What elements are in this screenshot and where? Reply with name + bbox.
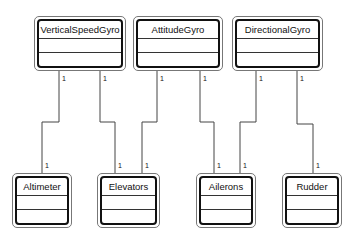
multiplicity-attitude-ailerons-source: 1: [203, 75, 207, 83]
association-attitude-elevators: [142, 70, 157, 173]
multiplicity-directional-ailerons-target: 1: [243, 162, 247, 170]
class-ailerons[interactable]: Ailerons: [196, 173, 256, 228]
operations-compartment: [17, 210, 67, 223]
class-name: VerticalSpeedGyro: [39, 21, 121, 39]
association-vsg-altimeter: [42, 70, 59, 173]
operations-compartment: [287, 210, 337, 223]
association-directional-rudder: [297, 70, 313, 173]
multiplicity-vsg-altimeter-target: 1: [45, 162, 49, 170]
association-attitude-ailerons: [200, 70, 214, 173]
class-name: DirectionalGyro: [237, 21, 318, 39]
class-elevators[interactable]: Elevators: [97, 173, 160, 228]
attributes-compartment: [201, 196, 251, 210]
class-altimeter[interactable]: Altimeter: [12, 173, 72, 228]
operations-compartment: [102, 210, 155, 223]
class-vertical-speed-gyro[interactable]: VerticalSpeedGyro: [34, 16, 126, 71]
multiplicity-directional-rudder-target: 1: [316, 162, 320, 170]
class-name: Ailerons: [201, 178, 251, 196]
attributes-compartment: [138, 39, 218, 53]
class-attitude-gyro[interactable]: AttitudeGyro: [133, 16, 223, 71]
attributes-compartment: [102, 196, 155, 210]
attributes-compartment: [287, 196, 337, 210]
multiplicity-vsg-elevators-source: 1: [103, 75, 107, 83]
multiplicity-attitude-elevators-target: 1: [145, 162, 149, 170]
multiplicity-attitude-ailerons-target: 1: [217, 162, 221, 170]
attributes-compartment: [237, 39, 318, 53]
class-rudder[interactable]: Rudder: [282, 173, 342, 228]
operations-compartment: [138, 53, 218, 66]
operations-compartment: [39, 53, 121, 66]
class-directional-gyro[interactable]: DirectionalGyro: [232, 16, 323, 71]
multiplicity-attitude-elevators-source: 1: [160, 75, 164, 83]
attributes-compartment: [17, 196, 67, 210]
class-name: AttitudeGyro: [138, 21, 218, 39]
operations-compartment: [201, 210, 251, 223]
attributes-compartment: [39, 39, 121, 53]
multiplicity-vsg-elevators-target: 1: [118, 162, 122, 170]
multiplicity-vsg-altimeter-source: 1: [62, 75, 66, 83]
association-vsg-elevators: [100, 70, 115, 173]
class-name: Rudder: [287, 178, 337, 196]
class-name: Altimeter: [17, 178, 67, 196]
class-name: Elevators: [102, 178, 155, 196]
multiplicity-directional-ailerons-source: 1: [259, 75, 263, 83]
association-directional-ailerons: [240, 70, 256, 173]
operations-compartment: [237, 53, 318, 66]
multiplicity-directional-rudder-source: 1: [300, 75, 304, 83]
